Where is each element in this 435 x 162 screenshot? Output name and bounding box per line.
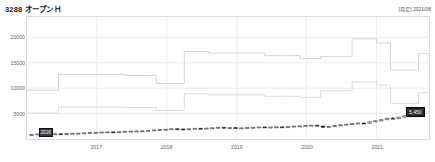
- stock-chart-widget: 3288 オープンＨ [月足] 2021/08 2000015000100005…: [0, 0, 435, 162]
- y-axis: 2000015000100005000: [0, 16, 25, 140]
- page-title: 3288 オープンＨ: [5, 3, 61, 14]
- y-axis-tick-label: 5000: [13, 111, 25, 117]
- plot-area[interactable]: [26, 16, 430, 140]
- x-axis-tick-label: 2018: [161, 144, 173, 150]
- y-axis-tick-label: 15000: [11, 60, 25, 66]
- y-axis-tick-label: 10000: [11, 85, 25, 91]
- chart-period-label: [月足] 2021/08: [399, 5, 431, 12]
- x-axis-tick-label: 2020: [301, 144, 313, 150]
- x-axis-tick-label: 2021: [372, 144, 384, 150]
- y-axis-tick-label: 20000: [11, 34, 25, 40]
- x-axis-tick-label: 2019: [231, 144, 243, 150]
- cursor-date-tag: 2016: [39, 128, 53, 137]
- candlestick-layer: [27, 17, 429, 139]
- chart-header: 3288 オープンＨ [月足] 2021/08: [0, 0, 435, 16]
- x-axis-tick-label: 2017: [90, 144, 102, 150]
- x-axis: 20172018201920202021: [26, 141, 430, 155]
- last-price-tag: 5,450: [406, 107, 425, 117]
